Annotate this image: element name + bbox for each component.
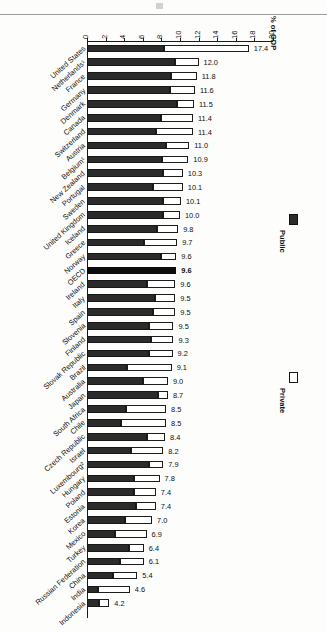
bar-value-label: 5.4	[142, 571, 152, 580]
bar-segment-public	[87, 350, 149, 358]
bar-value-label: 9.0	[173, 377, 183, 386]
bar-segment-public	[87, 280, 147, 288]
bar-value-label: 11.8	[202, 72, 216, 81]
bar-value-label: 4.2	[114, 599, 124, 608]
bar-value-label: 9.5	[178, 322, 188, 331]
bar-value-label: 9.5	[180, 308, 190, 317]
bar-value-label: 9.7	[182, 238, 192, 247]
bar-segment-private	[149, 461, 163, 469]
bar-row: 10.9	[87, 154, 273, 166]
x-axis-tick	[124, 38, 125, 41]
bar-segment-private	[153, 183, 183, 191]
x-axis-tick	[143, 38, 144, 41]
bar-row: 7.4	[87, 501, 273, 513]
bar-segment-public	[87, 45, 164, 53]
x-axis-tick	[254, 38, 255, 41]
bar-segment-private	[161, 114, 193, 122]
bar-segment-private	[156, 128, 193, 136]
bar-segment-private	[147, 433, 166, 441]
bar-segment-private	[129, 544, 144, 552]
bar-value-label: 11.5	[199, 100, 213, 109]
bar-segment-public	[87, 322, 149, 330]
bar-segment-private	[149, 322, 173, 330]
bar-segment-private	[121, 419, 166, 427]
bar-value-label: 11.0	[194, 141, 208, 150]
bar-segment-public	[87, 461, 149, 469]
bar-segment-public	[87, 586, 98, 594]
bar-row: 7.8	[87, 473, 273, 485]
bar-segment-private	[99, 599, 109, 607]
bar-value-label: 11.4	[198, 128, 212, 137]
bar-segment-public	[87, 169, 163, 177]
bar-row: 12.0	[87, 57, 273, 69]
bar-segment-public	[87, 405, 126, 413]
bar-segment-public	[87, 572, 113, 580]
bar-value-label: 7.9	[168, 460, 178, 469]
bar-segment-public	[87, 100, 177, 108]
bar-row: 8.5	[87, 404, 273, 416]
bar-row: 6.4	[87, 542, 273, 554]
bar-row: 8.7	[87, 390, 273, 402]
bar-value-label: 11.4	[198, 114, 212, 123]
bar-segment-private	[153, 308, 175, 316]
x-axis-tick-label: 16	[230, 30, 239, 39]
bar-row: 9.5	[87, 293, 273, 305]
bar-row: 7.9	[87, 459, 273, 471]
bar-segment-private	[170, 86, 195, 94]
bar-row: 9.2	[87, 348, 273, 360]
x-axis-tick	[180, 38, 181, 41]
x-axis-tick-label: 6	[137, 35, 146, 39]
bar-segment-private	[155, 294, 175, 302]
bar-value-label: 10.9	[193, 155, 207, 164]
bar-value-label: 12.0	[204, 58, 218, 67]
bar-value-label: 8.5	[171, 419, 181, 428]
bar-row: 9.8	[87, 223, 273, 235]
bar-segment-public	[87, 336, 151, 344]
bar-value-label: 6.9	[152, 530, 162, 539]
bar-segment-public	[87, 308, 153, 316]
bar-row: 6.9	[87, 528, 273, 540]
bar-value-label: 11.6	[200, 86, 214, 95]
bar-segment-private	[164, 45, 249, 53]
bar-segment-public	[87, 502, 136, 510]
bar-row: 9.0	[87, 376, 273, 388]
bar-value-label: 7.8	[165, 474, 175, 483]
legend-label-private: Private	[278, 388, 287, 413]
x-axis-tick	[273, 38, 274, 41]
bar-segment-public	[87, 183, 153, 191]
bar-row: 10.1	[87, 196, 273, 208]
x-axis-tick	[161, 38, 162, 41]
bar-segment-private	[125, 516, 152, 524]
bar-row: 17.4	[87, 43, 273, 55]
bar-value-label: 17.4	[254, 44, 268, 53]
x-axis-tick	[199, 38, 200, 41]
x-axis-tick-label: 14	[211, 30, 220, 39]
bar-segment-public	[87, 225, 157, 233]
bar-segment-public	[87, 72, 171, 80]
chart-page: 02468101214161820 % of GDP 17.412.011.81…	[0, 0, 327, 633]
bar-value-label: 9.6	[181, 266, 191, 275]
bar-segment-public	[87, 433, 147, 441]
x-axis-tick-label: 18	[248, 30, 257, 39]
bar-row: 9.6	[87, 265, 273, 277]
bar-segment-public	[87, 558, 120, 566]
bar-segment-public	[87, 128, 156, 136]
bar-value-label: 9.6	[181, 252, 191, 261]
bar-row: 4.6	[87, 584, 273, 596]
bar-row: 7.0	[87, 515, 273, 527]
bar-value-label: 7.4	[161, 488, 171, 497]
bar-segment-private	[149, 350, 172, 358]
bar-segment-public	[87, 377, 143, 385]
page-artifact	[156, 3, 163, 9]
bar-row: 9.7	[87, 237, 273, 249]
bar-segment-private	[134, 475, 159, 483]
bar-row: 11.4	[87, 112, 273, 124]
bar-row: 11.6	[87, 85, 273, 97]
bar-row: 8.5	[87, 417, 273, 429]
bar-segment-private	[157, 225, 178, 233]
bar-segment-public	[87, 197, 163, 205]
bar-segment-public	[87, 419, 121, 427]
bar-segment-public	[87, 488, 134, 496]
bar-row: 10.1	[87, 182, 273, 194]
bar-segment-private	[144, 239, 177, 247]
